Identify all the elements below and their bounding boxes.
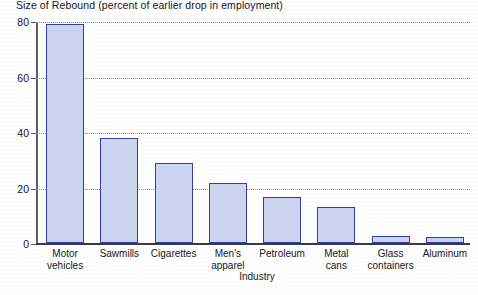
gridline-60 bbox=[36, 78, 470, 79]
bar bbox=[46, 24, 84, 243]
chart-title: Size of Rebound (percent of earlier drop… bbox=[16, 0, 283, 11]
plot-area: 020406080 bbox=[36, 22, 470, 244]
y-tick-label-80: 80 bbox=[17, 16, 29, 28]
gridline-40 bbox=[36, 133, 470, 134]
bar bbox=[426, 237, 464, 243]
y-tick-label-0: 0 bbox=[23, 238, 29, 250]
bar bbox=[372, 236, 410, 243]
bar bbox=[209, 183, 247, 243]
y-tick-mark-0 bbox=[31, 244, 36, 245]
y-tick-label-60: 60 bbox=[17, 72, 29, 84]
x-axis-title-text: Industry bbox=[239, 271, 275, 282]
bar bbox=[100, 138, 138, 243]
x-axis-line bbox=[36, 243, 470, 245]
y-tick-label-20: 20 bbox=[17, 183, 29, 195]
y-tick-mark-20 bbox=[31, 189, 36, 190]
y-tick-mark-60 bbox=[31, 78, 36, 79]
x-axis-category-label: Aluminum bbox=[412, 248, 478, 260]
gridline-80 bbox=[36, 22, 470, 23]
x-axis-title: Industry bbox=[0, 271, 478, 282]
y-tick-label-40: 40 bbox=[17, 127, 29, 139]
y-tick-mark-80 bbox=[31, 22, 36, 23]
bar bbox=[155, 163, 193, 243]
bar bbox=[317, 207, 355, 243]
bar bbox=[263, 197, 301, 243]
bar-chart: Size of Rebound (percent of earlier drop… bbox=[0, 0, 478, 295]
y-tick-mark-40 bbox=[31, 133, 36, 134]
